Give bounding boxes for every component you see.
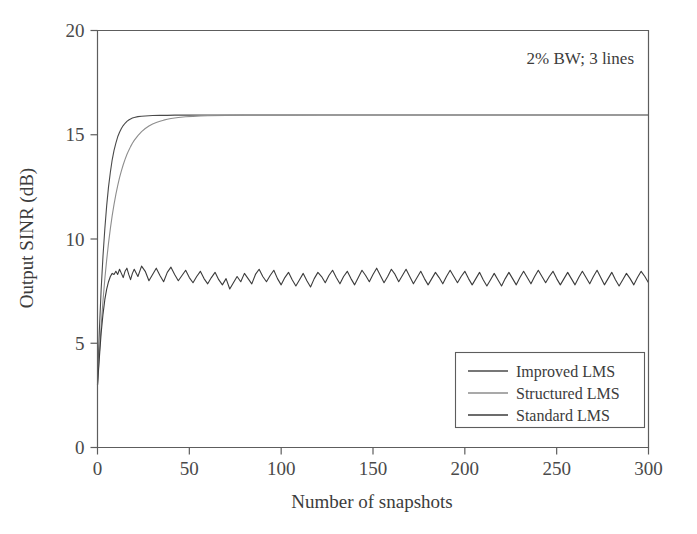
legend-label-standard-lms: Standard LMS (516, 407, 610, 424)
x-tick-label: 300 (634, 458, 663, 479)
y-tick-label: 5 (75, 333, 85, 354)
chart-annotation: 2% BW; 3 lines (527, 49, 635, 68)
y-axis-title: Output SINR (dB) (16, 168, 38, 308)
x-tick-label: 250 (542, 458, 571, 479)
y-tick-label: 15 (66, 124, 85, 145)
legend-label-structured-lms: Structured LMS (516, 385, 620, 402)
x-tick-label: 0 (93, 458, 103, 479)
x-tick-label: 200 (451, 458, 480, 479)
y-tick-label: 0 (75, 437, 85, 458)
x-tick-label: 150 (359, 458, 388, 479)
sinr-convergence-chart: 05101520050100150200250300 Output SINR (… (0, 0, 697, 534)
figure-container: 05101520050100150200250300 Output SINR (… (0, 0, 697, 534)
x-tick-label: 100 (267, 458, 296, 479)
y-tick-label: 20 (66, 20, 85, 41)
chart-legend: Improved LMSStructured LMSStandard LMS (456, 353, 645, 428)
chart-background (0, 0, 697, 534)
y-tick-label: 10 (66, 229, 85, 250)
legend-label-improved-lms: Improved LMS (516, 363, 615, 381)
x-tick-label: 50 (180, 458, 199, 479)
x-axis-title: Number of snapshots (291, 491, 452, 512)
